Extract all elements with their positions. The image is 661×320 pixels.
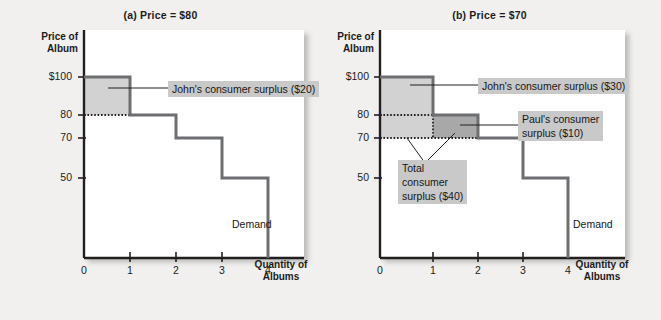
panel-a-xtick-label-0: 0 (76, 264, 92, 276)
panel-b-pauls-surplus-callout: Paul's consumer surplus ($10) (518, 111, 603, 141)
panel-a-demand-label: Demand (232, 218, 272, 230)
panel-a-x-axis-label: Quantity of Albums (245, 259, 317, 283)
panel-a-ytick-label-70: 70 (28, 131, 72, 143)
panel-a-ytick-label-50: 50 (28, 171, 72, 183)
johns-surplus-region (380, 77, 433, 138)
panel-a-xtick-label-3: 3 (214, 264, 230, 276)
panel-a-xtick-label-4: 4 (260, 264, 276, 276)
panel-a-xtick-label-1: 1 (122, 264, 138, 276)
panel-a-johns-surplus-callout: John's consumer surplus ($20) (168, 81, 319, 97)
panel-b-xtick-label-1: 1 (425, 264, 441, 276)
panel-b-y-axis-label: Price of Album (306, 31, 374, 55)
panel-b-total-surplus-callout: Total consumer surplus ($40) (398, 160, 467, 204)
panel-a-ytick-label-100: $100 (28, 70, 72, 82)
consumer-surplus-figure: (a) Price = $80 Price of (0, 0, 661, 320)
panel-b-ytick-label-50: 50 (325, 171, 369, 183)
panel-a-xtick-label-2: 2 (168, 264, 184, 276)
panel-b-ytick-label-80: 80 (325, 108, 369, 120)
panel-b-ytick-label-70: 70 (325, 131, 369, 143)
panel-b-xtick-label-3: 3 (515, 264, 531, 276)
panel-a: (a) Price = $80 Price of (0, 0, 331, 320)
johns-surplus-region (84, 77, 130, 115)
panel-b-x-axis-label: Quantity of Albums (566, 259, 638, 283)
panel-b-johns-surplus-callout: John's consumer surplus ($30) (478, 78, 629, 94)
panel-b-ytick-label-100: $100 (325, 70, 369, 82)
panel-b-demand-label: Demand (573, 218, 613, 230)
panel-b-xtick-label-2: 2 (470, 264, 486, 276)
pauls-surplus-region (433, 115, 478, 138)
panel-b: (b) Price = $70 (330, 0, 661, 320)
panel-b-xtick-label-4: 4 (560, 264, 576, 276)
panel-a-y-axis-label: Price of Album (10, 31, 78, 55)
panel-b-xtick-label-0: 0 (372, 264, 388, 276)
panel-a-ytick-label-80: 80 (28, 108, 72, 120)
